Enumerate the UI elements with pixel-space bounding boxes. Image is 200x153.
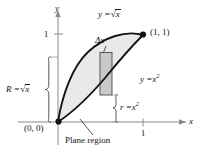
- lower-curve-label: y =x2: [140, 73, 160, 84]
- inner-radius-label: r =x2: [120, 101, 139, 112]
- x-axis-label: x: [189, 117, 193, 126]
- representative-rectangle: [100, 53, 112, 96]
- plane-region-leader-line: [80, 119, 93, 135]
- upper-curve-radicand: x: [115, 9, 121, 19]
- outer-radius-brace: [45, 57, 50, 122]
- lower-curve-lhs: y =: [140, 74, 152, 84]
- region-caption: Plane region: [65, 136, 110, 145]
- sqrt-symbol-upper: √x: [110, 9, 120, 19]
- origin-label: (0, 0): [24, 124, 44, 133]
- inner-radius-brace: [113, 95, 118, 122]
- delta-x-label: Δx: [95, 36, 104, 45]
- x-axis-arrowhead: [179, 119, 186, 124]
- plane-region-figure: y x 1 1 y =√x (1, 1) Δx y =x2 R =√x r =x…: [0, 0, 200, 153]
- y-tick-label-1: 1: [44, 30, 48, 39]
- y-axis-label: y: [55, 4, 59, 13]
- inner-radius-exponent: 2: [136, 100, 139, 107]
- outer-radius-lhs: R =: [6, 84, 20, 94]
- inner-radius-lhs: r =: [120, 102, 132, 112]
- upper-curve-label: y =√x: [98, 9, 121, 19]
- sqrt-symbol-outer: √x: [20, 84, 30, 94]
- x-tick-label-1: 1: [141, 129, 145, 138]
- origin-point-dot: [55, 118, 61, 124]
- point-1-1-label: (1, 1): [150, 28, 170, 37]
- outer-radius-label: R =√x: [6, 84, 30, 94]
- point-1-1-dot: [140, 31, 146, 37]
- lower-curve-exponent: 2: [156, 72, 159, 79]
- upper-curve-lhs: y =: [98, 9, 110, 19]
- delta-x-text: Δx: [95, 35, 104, 45]
- outer-radius-radicand: x: [25, 84, 31, 94]
